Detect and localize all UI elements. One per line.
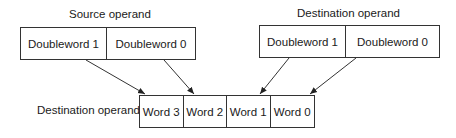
arrow-dst-dw1-to-word1: [260, 58, 289, 94]
arrow-dst-dw0-to-word0: [310, 58, 356, 94]
arrow-src-dw1-to-word3: [86, 60, 145, 94]
arrow-src-dw0-to-word2: [164, 60, 194, 94]
pack-arrows: [0, 0, 456, 138]
